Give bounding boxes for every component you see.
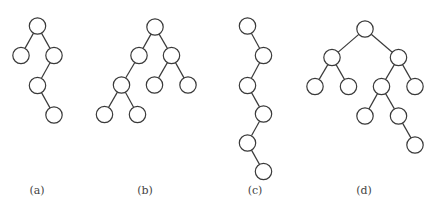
tree-edge: [159, 63, 168, 78]
tree-node: [357, 108, 373, 124]
tree-node: [307, 78, 323, 94]
tree-node: [239, 135, 255, 151]
tree-edge: [251, 121, 259, 136]
tree-edge: [252, 93, 260, 107]
tree-edge: [386, 65, 395, 80]
tree-edge: [109, 92, 118, 107]
tree-node: [13, 47, 29, 63]
tree-edge: [42, 33, 50, 48]
tree-node: [390, 49, 406, 65]
tree-edge: [25, 33, 33, 48]
tree-edge: [403, 123, 411, 138]
tree-edge: [252, 150, 260, 164]
binary-trees-figure: (a) (b) (c) (d): [0, 0, 434, 208]
tree-node: [239, 77, 255, 93]
tree-node: [96, 106, 112, 122]
tree-node: [147, 19, 163, 35]
tree-c: [239, 18, 271, 180]
tree-node: [373, 78, 389, 94]
tree-a: [13, 18, 62, 123]
tree-node: [46, 47, 62, 63]
tree-edge: [126, 63, 135, 78]
tree-edge: [336, 65, 344, 80]
tree-node: [407, 137, 423, 153]
caption-a: (a): [29, 184, 44, 197]
tree-edge: [319, 65, 328, 80]
tree-node: [239, 18, 255, 34]
tree-node: [131, 47, 147, 63]
tree-node: [113, 77, 129, 93]
tree-node: [255, 163, 271, 179]
tree-node: [180, 77, 196, 93]
tree-node: [357, 21, 373, 37]
tree-edge: [41, 63, 50, 79]
tree-node: [255, 47, 271, 63]
tree-edge: [386, 94, 395, 109]
tree-node: [324, 49, 340, 65]
tree-edge: [369, 94, 377, 109]
tree-node: [255, 106, 271, 122]
tree-node: [129, 106, 145, 122]
tree-node: [390, 108, 406, 124]
tree-edge: [371, 34, 392, 52]
tree-node: [29, 77, 45, 93]
caption-b: (b): [137, 184, 153, 197]
tree-edge: [42, 93, 50, 108]
tree-node: [146, 77, 162, 93]
tree-edge: [403, 65, 411, 80]
tree-edge: [125, 92, 133, 107]
tree-b: [96, 19, 196, 123]
tree-node: [29, 18, 45, 34]
tree-edge: [159, 34, 167, 48]
caption-d: (d): [356, 184, 372, 197]
tree-node: [407, 78, 423, 94]
tree-node: [163, 47, 179, 63]
tree-edge: [338, 34, 359, 52]
tree-edge: [251, 63, 259, 79]
tree-edge: [251, 33, 259, 48]
caption-c: (c): [248, 184, 263, 197]
tree-edge: [176, 63, 184, 78]
tree-node: [46, 107, 62, 123]
tree-edge: [143, 34, 151, 48]
tree-node: [340, 78, 356, 94]
tree-d: [307, 21, 423, 153]
